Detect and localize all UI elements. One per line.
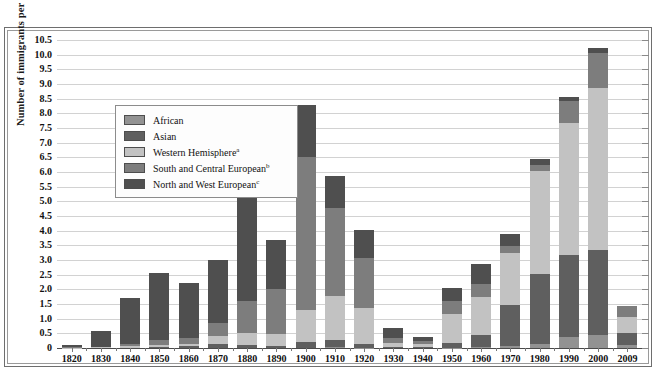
bar-1950[interactable] <box>442 288 462 348</box>
x-minor-tick-mark <box>379 348 380 351</box>
legend-item-1[interactable]: Asian <box>124 128 289 144</box>
y-tick-label: 9.5 <box>6 63 52 74</box>
x-tick-mark <box>72 348 73 352</box>
x-axis: 1820183018401850186018701880189019001910… <box>57 348 642 368</box>
legend-label: South and Central Europeanb <box>153 162 270 174</box>
chart-figure-frame: Number of immigrants per decade (in mill… <box>4 27 652 367</box>
right-tick-mark <box>642 231 649 232</box>
bar-segment <box>208 323 228 336</box>
bar-segment <box>588 88 608 249</box>
y-tick-label: 4.5 <box>6 210 52 221</box>
bar-1850[interactable] <box>149 273 169 348</box>
x-minor-tick-mark <box>350 348 351 351</box>
bar-1960[interactable] <box>471 264 491 348</box>
legend-label: North and West Europeanc <box>153 178 259 190</box>
bar-segment <box>500 246 520 253</box>
x-minor-tick-mark <box>408 348 409 351</box>
bar-segment <box>471 284 491 297</box>
legend-item-4[interactable]: North and West Europeanc <box>124 176 289 192</box>
x-tick-mark <box>569 348 570 352</box>
bar-1870[interactable] <box>208 260 228 348</box>
bar-1930[interactable] <box>383 328 403 348</box>
bar-segment <box>325 340 345 347</box>
bar-segment <box>588 250 608 335</box>
bar-1990[interactable] <box>559 97 579 348</box>
bar-1920[interactable] <box>354 230 374 348</box>
legend-item-3[interactable]: South and Central Europeanb <box>124 160 289 176</box>
x-minor-tick-mark <box>86 348 87 351</box>
bar-1880[interactable] <box>237 190 257 348</box>
x-tick-mark <box>627 348 628 352</box>
x-tick-mark <box>247 348 248 352</box>
right-tick-mark <box>642 216 649 217</box>
legend-footnote-marker: c <box>256 178 259 186</box>
bar-segment <box>530 274 550 344</box>
legend-item-0[interactable]: African <box>124 112 289 128</box>
legend-label: Western Hemispherea <box>153 146 239 158</box>
bar-segment <box>325 176 345 208</box>
right-tick-mark <box>642 201 649 202</box>
x-tick-label-2009: 2009 <box>604 353 650 364</box>
bar-1840[interactable] <box>120 298 140 348</box>
y-tick-label: 6.0 <box>6 166 52 177</box>
legend-swatch-icon <box>124 179 145 189</box>
chart-legend: AfricanAsianWestern HemisphereaSouth and… <box>115 105 298 198</box>
bar-1860[interactable] <box>179 283 199 348</box>
y-tick-label: 8.0 <box>6 107 52 118</box>
x-tick-mark <box>335 348 336 352</box>
x-tick-mark <box>218 348 219 352</box>
y-tick-label: 1.0 <box>6 313 52 324</box>
right-tick-mark <box>642 40 649 41</box>
right-tick-mark <box>642 172 649 173</box>
bar-1980[interactable] <box>530 159 550 348</box>
y-tick-label: 5.5 <box>6 181 52 192</box>
y-tick-label: 0.5 <box>6 327 52 338</box>
legend-item-2[interactable]: Western Hemispherea <box>124 144 289 160</box>
right-tick-mark <box>642 157 649 158</box>
right-tick-mark <box>642 84 649 85</box>
right-tick-mark <box>642 113 649 114</box>
x-minor-tick-mark <box>584 348 585 351</box>
bar-segment <box>296 157 316 310</box>
x-minor-tick-mark <box>174 348 175 351</box>
right-tick-mark <box>642 348 649 349</box>
x-tick-mark <box>159 348 160 352</box>
right-tick-mark <box>642 275 649 276</box>
bar-1890[interactable] <box>266 240 286 348</box>
y-tick-label: 8.5 <box>6 93 52 104</box>
bar-1830[interactable] <box>91 331 111 348</box>
bar-segment <box>442 301 462 314</box>
right-tick-mark <box>642 245 649 246</box>
x-minor-tick-mark <box>467 348 468 351</box>
bar-segment <box>559 101 579 123</box>
bar-segment <box>149 273 169 340</box>
bar-segment <box>296 310 316 342</box>
bar-segment <box>442 314 462 343</box>
bar-segment <box>471 264 491 285</box>
bar-segment <box>559 337 579 348</box>
bar-segment <box>530 171 550 274</box>
right-tick-mark <box>642 99 649 100</box>
bar-segment <box>296 105 316 158</box>
bar-1900[interactable] <box>296 105 316 348</box>
bar-segment <box>354 230 374 258</box>
x-tick-mark <box>452 348 453 352</box>
x-minor-tick-mark <box>496 348 497 351</box>
bar-1970[interactable] <box>500 234 520 348</box>
bar-segment <box>559 123 579 255</box>
bar-segment <box>266 240 286 288</box>
y-tick-label: 6.5 <box>6 151 52 162</box>
y-tick-label: 10.5 <box>6 34 52 45</box>
bar-2009[interactable] <box>617 306 637 348</box>
bar-segment <box>266 289 286 334</box>
right-tick-mark <box>642 304 649 305</box>
bar-2000[interactable] <box>588 48 608 348</box>
y-tick-label: 1.5 <box>6 298 52 309</box>
bar-1940[interactable] <box>413 337 433 348</box>
bar-segment <box>179 283 199 339</box>
x-minor-tick-mark <box>613 348 614 351</box>
x-tick-mark <box>540 348 541 352</box>
bar-segment <box>617 306 637 318</box>
bar-segment <box>237 333 257 345</box>
bar-1910[interactable] <box>325 176 345 348</box>
